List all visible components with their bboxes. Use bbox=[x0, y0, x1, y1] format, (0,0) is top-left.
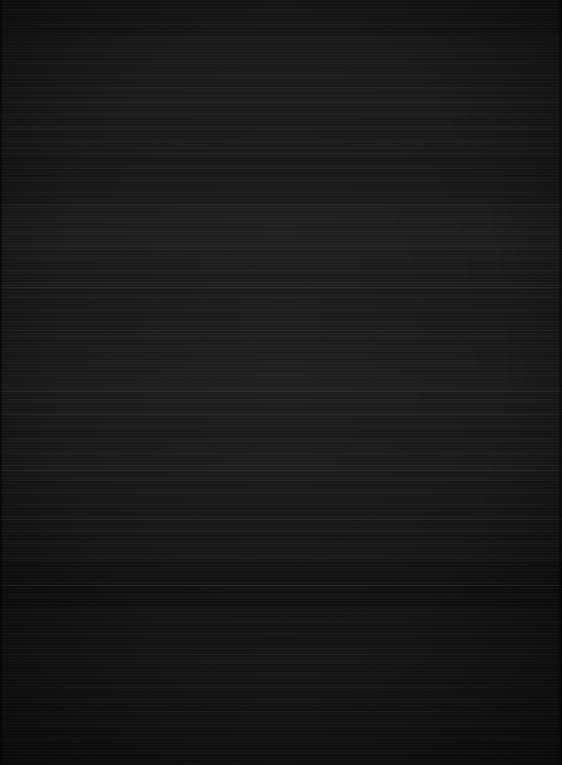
screen-capture bbox=[0, 0, 562, 765]
background-surface bbox=[0, 0, 562, 765]
